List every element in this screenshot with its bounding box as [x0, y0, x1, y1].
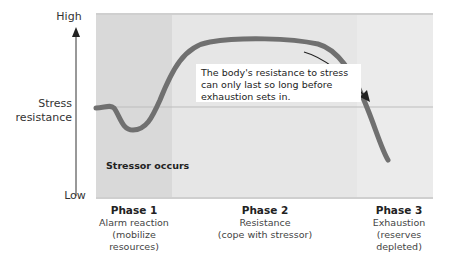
- y-axis-low-label: Low: [60, 189, 90, 203]
- y-axis-arrow-icon: [72, 27, 80, 37]
- y-axis-title: Stress resistance: [0, 97, 72, 125]
- phase2-line1: Resistance: [200, 217, 330, 229]
- stressor-occurs-label: Stressor occurs: [106, 160, 189, 171]
- y-axis-title-line1: Stress: [0, 97, 72, 111]
- phase1-line1: Alarm reaction: [96, 217, 172, 229]
- phase3-label: Phase 3 Exhaustion (reserves depleted): [364, 203, 434, 253]
- phase3-line3: depleted): [364, 241, 434, 253]
- y-axis-title-line2: resistance: [0, 111, 72, 125]
- callout-box: The body's resistance to stress can only…: [196, 64, 361, 102]
- phase1-label: Phase 1 Alarm reaction (mobilize resourc…: [96, 203, 172, 253]
- phase2-line2: (cope with stressor): [200, 229, 330, 241]
- callout-line1: The body's resistance to stress: [201, 67, 356, 79]
- callout-line2: can only last so long before: [201, 79, 356, 91]
- callout-line3: exhaustion sets in.: [201, 91, 356, 103]
- phase3-line2: (reserves: [364, 229, 434, 241]
- phase3-line1: Exhaustion: [364, 217, 434, 229]
- phase2-label: Phase 2 Resistance (cope with stressor): [200, 203, 330, 241]
- phase1-line3: resources): [96, 241, 172, 253]
- phase2-title: Phase 2: [200, 203, 330, 217]
- phase1-line2: (mobilize: [96, 229, 172, 241]
- y-axis-high-label: High: [52, 10, 86, 24]
- phase3-title: Phase 3: [364, 203, 434, 217]
- phase1-title: Phase 1: [96, 203, 172, 217]
